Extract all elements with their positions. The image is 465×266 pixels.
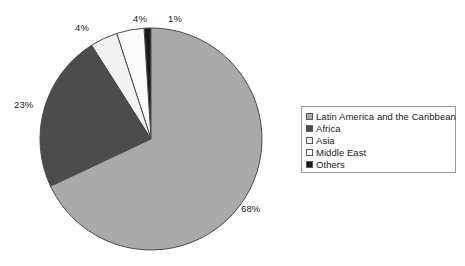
legend-item-label: Middle East [316,148,366,158]
legend-item[interactable]: Africa [306,123,451,135]
legend-item[interactable]: Asia [306,135,451,147]
legend-item-label: Africa [316,124,341,134]
legend-swatch-icon [306,149,313,156]
pie-slices-group [40,28,262,250]
legend-swatch-icon [306,137,313,144]
legend-item-label: Latin America and the Caribbean [316,112,456,122]
pie-label-africa: 23% [14,99,33,110]
legend-swatch-icon [306,125,313,132]
legend-swatch-icon [306,161,313,168]
legend-item[interactable]: Middle East [306,147,451,159]
legend-swatch-icon [306,113,313,120]
pie-label-latin-america-and-the-caribbean: 68% [241,203,260,214]
legend-item[interactable]: Others [306,159,451,171]
chart-legend: Latin America and the CaribbeanAfricaAsi… [301,106,456,173]
pie-label-middle-east: 4% [133,13,147,24]
legend-item-label: Asia [316,136,335,146]
legend-item[interactable]: Latin America and the Caribbean [306,111,451,123]
pie-label-asia: 4% [75,22,89,33]
pie-label-others: 1% [168,13,182,24]
legend-item-label: Others [316,160,345,170]
